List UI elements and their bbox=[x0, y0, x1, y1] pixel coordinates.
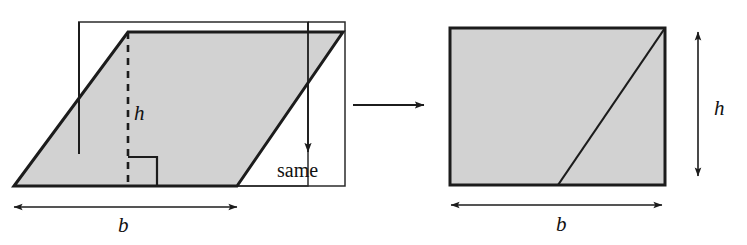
height-label-left: h bbox=[134, 101, 145, 125]
base-label-left: b bbox=[118, 213, 129, 237]
base-label-right: b bbox=[556, 212, 567, 236]
geometry-diagram: h same b h b bbox=[0, 0, 747, 245]
same-label: same bbox=[277, 159, 318, 181]
height-label-right: h bbox=[714, 96, 725, 120]
figure-root: h same b h b bbox=[0, 0, 747, 245]
rectangle-shape bbox=[450, 28, 665, 185]
